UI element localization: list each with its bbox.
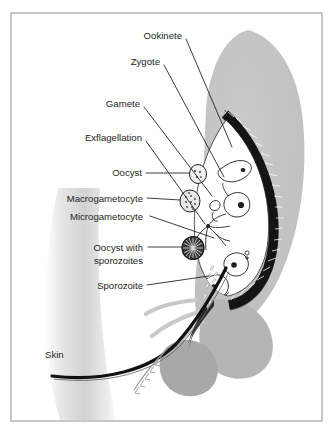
label-sporozoite: Sporozoite <box>97 280 143 291</box>
label-macrogametocyte: Macrogametocyte <box>67 193 143 204</box>
label-ookinete: Ookinete <box>144 30 182 41</box>
figure-root: Ookinete Zygote Gamete Exflagellation Oo… <box>0 0 333 434</box>
label-skin: Skin <box>45 349 64 360</box>
label-oocyst-with-sporozoites-line2: sporozoites <box>94 255 143 266</box>
label-gamete: Gamete <box>106 98 140 109</box>
label-zygote: Zygote <box>131 56 160 67</box>
label-oocyst-with-sporozoites-line1: Oocyst with <box>93 242 143 253</box>
oocyst-small <box>190 165 207 184</box>
label-oocyst: Oocyst <box>112 167 142 178</box>
label-exflagellation: Exflagellation <box>85 132 142 143</box>
mature-oocyst <box>182 237 204 260</box>
diagram-canvas: Ookinete Zygote Gamete Exflagellation Oo… <box>0 0 333 434</box>
label-microgametocyte: Microgametocyte <box>70 211 143 222</box>
